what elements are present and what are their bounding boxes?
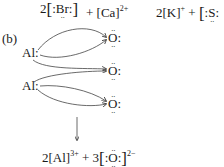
arrow-al1-o1-lower (40, 40, 106, 57)
oxide-charge: 2− (127, 149, 136, 158)
arrow-al2-o2 (34, 71, 106, 82)
aluminum-ion: [Al] (49, 150, 71, 165)
plus-sign: + (82, 150, 89, 165)
aluminum-charge: 3+ (70, 149, 79, 158)
arrow-al1-o2 (33, 60, 106, 69)
arrow-al2-o3-lower (38, 90, 106, 106)
product-expression: 2[Al]3+ + 3[:O:]2− (42, 147, 136, 166)
oxide-symbol: O (108, 151, 117, 165)
electron-transfer-arrows (0, 0, 224, 167)
arrow-al2-o3-upper (40, 86, 106, 101)
